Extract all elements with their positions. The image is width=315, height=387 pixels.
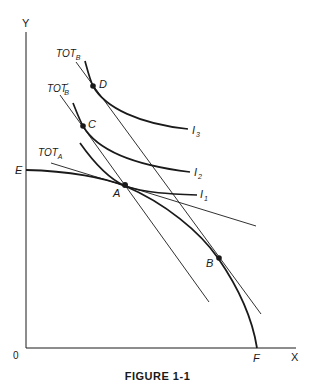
point-c (80, 123, 86, 129)
label-b: B (206, 257, 213, 269)
ppf-curve (26, 170, 257, 348)
point-b (216, 255, 222, 261)
label-e: E (15, 164, 23, 176)
label-c: C (88, 118, 96, 130)
label-tot-a: TOTA (38, 147, 63, 160)
label-f: F (253, 352, 261, 364)
point-d (90, 83, 96, 89)
x-axis-label: X (291, 351, 299, 363)
trade-diagram: Y X 0 E F A B C D TOTB TOT′B TOTA I3 I2 … (0, 0, 315, 387)
indifference-curve-i3 (85, 61, 188, 129)
origin-label: 0 (13, 350, 19, 361)
tot-a-line (51, 163, 256, 226)
label-i3: I3 (192, 124, 200, 138)
label-a: A (112, 187, 120, 199)
y-axis-label: Y (22, 17, 30, 29)
label-i1: I1 (200, 188, 208, 202)
label-i2: I2 (194, 166, 202, 180)
figure-caption: FIGURE 1-1 (0, 370, 315, 382)
label-tot-b: TOTB (56, 48, 81, 61)
label-tot-b-prime: TOT′B (47, 82, 69, 96)
point-a (122, 182, 128, 188)
label-d: D (99, 78, 107, 90)
indifference-curve-i1 (80, 143, 197, 195)
